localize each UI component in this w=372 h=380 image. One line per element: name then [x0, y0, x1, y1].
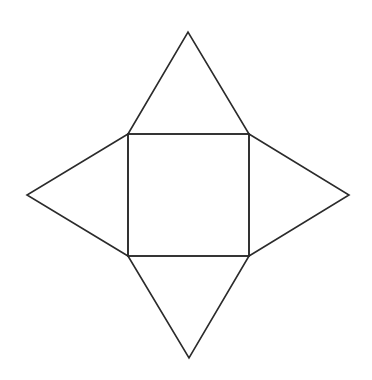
triangle-face-right: [249, 134, 349, 256]
triangle-face-top: [128, 32, 249, 134]
pyramid-net-diagram: [0, 0, 372, 380]
triangle-face-left: [27, 134, 128, 256]
triangle-face-bottom: [128, 256, 249, 358]
base-square: [128, 134, 249, 256]
